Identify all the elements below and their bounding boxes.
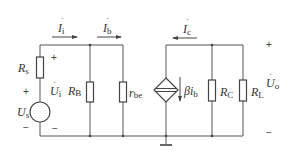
resistor-rc xyxy=(209,80,216,101)
dependent-current-source-icon xyxy=(154,78,178,102)
ib-dot: · xyxy=(106,13,109,23)
label-rl: RL xyxy=(250,85,264,100)
label-ib: Ib xyxy=(102,21,112,36)
ground-icon xyxy=(160,136,172,145)
label-us: Us xyxy=(17,105,30,120)
label-rs: Rs xyxy=(17,61,29,76)
ii-dot: · xyxy=(61,13,64,23)
uo-plus: + xyxy=(266,39,272,50)
label-rbe: rbe xyxy=(129,86,142,100)
ui-dot: · xyxy=(53,77,56,87)
resistor-rbe xyxy=(120,82,127,102)
resistor-rs xyxy=(37,57,44,78)
us-plus: + xyxy=(23,86,29,97)
label-beta-ib: βib xyxy=(183,84,198,99)
us-minus: − xyxy=(23,122,29,133)
label-rb: RB xyxy=(67,84,81,98)
ui-plus: + xyxy=(51,52,57,63)
label-ic: Ic xyxy=(182,22,191,37)
us-dot: · xyxy=(20,103,23,113)
circuit-diagram: Rs Us · + − + Ui · − RB rbe Ii · Ib · Ic… xyxy=(0,0,295,160)
ui-minus: − xyxy=(52,123,58,134)
resistor-rb xyxy=(87,82,94,102)
label-rc: RC xyxy=(219,85,233,100)
uo-dot: · xyxy=(269,69,272,79)
voltage-source-us xyxy=(30,102,50,122)
uo-minus: − xyxy=(266,127,272,138)
label-ii: Ii xyxy=(57,21,65,36)
ic-dot: · xyxy=(186,14,189,24)
resistor-rl xyxy=(240,80,247,101)
